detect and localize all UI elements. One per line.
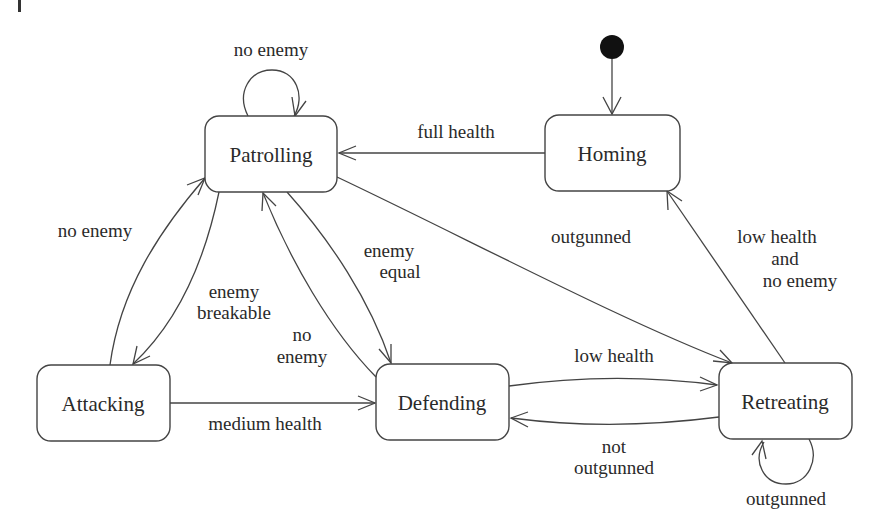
- state-label: Attacking: [62, 392, 145, 416]
- label-retreating-to-defending-2: outgunned: [574, 457, 655, 478]
- label-retreating-self: outgunned: [746, 488, 827, 509]
- state-label: Retreating: [741, 390, 829, 414]
- label-homing-to-patrolling: full health: [417, 121, 495, 142]
- state-retreating[interactable]: Retreating: [719, 363, 852, 439]
- state-label: Defending: [398, 391, 487, 415]
- label-attacking-to-defending: medium health: [208, 413, 322, 434]
- state-defending[interactable]: Defending: [376, 364, 509, 440]
- label-patrolling-to-attacking-2: breakable: [197, 302, 271, 323]
- state-label: Patrolling: [230, 143, 313, 167]
- label-patrolling-to-attacking-1: enemy: [209, 281, 260, 302]
- label-patrolling-to-retreating: outgunned: [551, 226, 632, 247]
- state-attacking[interactable]: Attacking: [37, 365, 170, 441]
- label-retreating-to-defending-1: not: [602, 436, 627, 457]
- initial-state-dot: [600, 35, 624, 59]
- edge-homing-to-patrolling: [339, 146, 545, 160]
- label-defending-to-patrolling-1: no: [293, 324, 312, 345]
- state-homing[interactable]: Homing: [545, 115, 680, 191]
- state-patrolling[interactable]: Patrolling: [205, 116, 337, 192]
- state-label: Homing: [578, 142, 647, 166]
- label-patrolling-to-defending-1: enemy: [364, 240, 415, 261]
- label-attacking-to-patrolling: no enemy: [58, 220, 133, 241]
- label-defending-to-patrolling-2: enemy: [277, 346, 328, 367]
- label-retreating-to-homing-1: low health: [737, 226, 817, 247]
- state-diagram: Patrolling Homing Attacking Defending Re…: [0, 0, 887, 532]
- edge-patrolling-self: [244, 70, 306, 116]
- initial-transition-arrow: [603, 59, 621, 114]
- label-patrolling-to-defending-2: equal: [379, 261, 420, 282]
- margin-mark: [18, 0, 21, 12]
- label-retreating-to-homing-2: and: [771, 248, 799, 269]
- label-defending-to-retreating: low health: [574, 345, 654, 366]
- edge-retreating-to-defending: [511, 412, 719, 427]
- label-retreating-to-homing-3: no enemy: [763, 270, 838, 291]
- edge-retreating-self: [752, 439, 813, 484]
- edge-patrolling-to-attacking: [133, 192, 219, 364]
- edge-attacking-to-defending: [170, 396, 375, 410]
- label-patrolling-self: no enemy: [234, 39, 309, 60]
- edge-defending-to-retreating: [509, 377, 717, 391]
